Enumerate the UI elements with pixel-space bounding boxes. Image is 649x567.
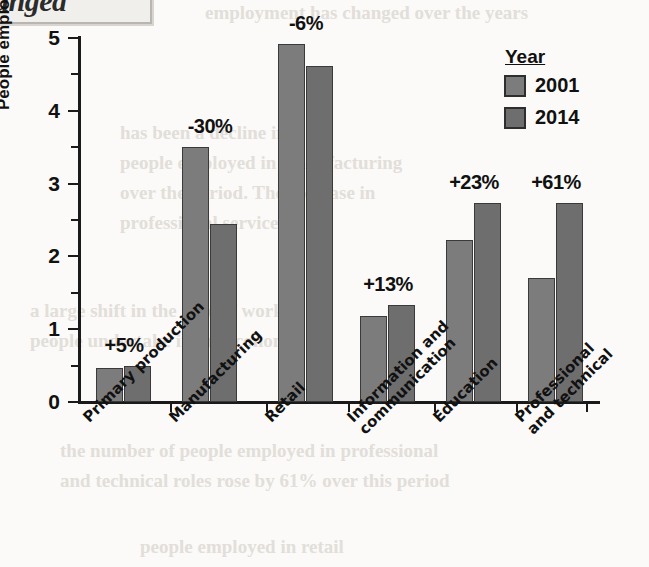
y-tick-major [68,328,78,330]
legend-item-2014[interactable]: 2014 [504,106,580,129]
bar-2001-3[interactable] [278,44,305,402]
y-tick-major [68,110,78,112]
pct-annotation-3: -6% [289,12,323,35]
y-tick-minor [71,219,78,221]
bleed-text-9: people employed in retail [140,536,344,558]
pct-annotation-2: -30% [188,115,233,138]
legend: Year 2001 2014 [504,46,580,138]
y-tick-label: 5 [36,26,60,50]
y-tick-label: 1 [36,317,60,341]
y-tick-label: 0 [36,390,60,414]
y-tick-label: 4 [36,99,60,123]
y-tick-major [68,37,78,39]
y-tick-minor [71,292,78,294]
bar-2014-3[interactable] [306,66,333,402]
scanned-page-figure: employment has changed over the years ha… [0,0,649,567]
legend-swatch-2014 [504,107,526,129]
bleed-text-top: employment has changed over the years [205,2,528,24]
x-tick-6 [586,401,588,412]
legend-item-2001[interactable]: 2001 [504,74,580,97]
y-tick-minor [71,365,78,367]
x-tick-3 [348,401,350,412]
bar-2001-2[interactable] [182,147,209,402]
legend-label-2014: 2014 [535,106,580,129]
x-tick-4 [434,401,436,412]
legend-label-2001: 2001 [535,74,580,97]
legend-title: Year [504,46,580,68]
x-tick-1 [170,401,172,412]
y-tick-label: 3 [36,172,60,196]
y-tick-major [68,183,78,185]
y-tick-major [68,255,78,257]
bleed-text-7: the number of people employed in profess… [60,440,438,462]
bleed-text-8: and technical roles rose by 61% over thi… [60,470,450,492]
x-tick-5 [516,401,518,412]
x-tick-2 [266,401,268,412]
pct-annotation-4: +13% [363,273,413,296]
y-axis-label: People employed (millions) [0,0,14,110]
pct-annotation-6: +61% [531,171,581,194]
y-tick-label: 2 [36,244,60,268]
y-tick-minor [71,146,78,148]
pct-annotation-5: +23% [449,171,499,194]
y-tick-major [68,401,78,403]
legend-swatch-2001 [504,75,526,97]
y-tick-minor [71,73,78,75]
